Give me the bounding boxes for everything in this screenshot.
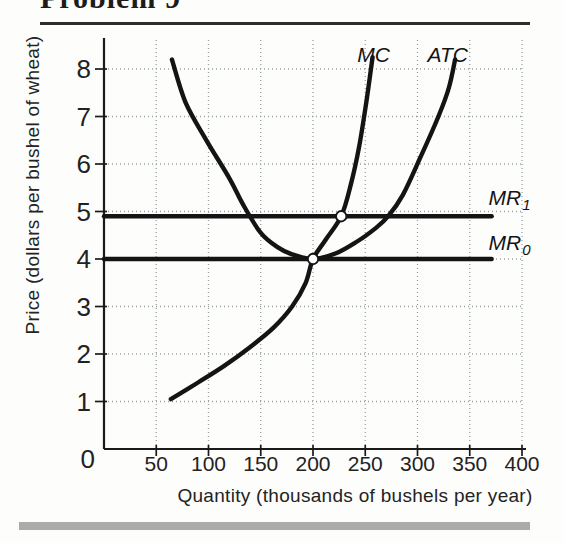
y-tick-label: 2	[77, 339, 91, 369]
x-tick-label: 200	[295, 452, 330, 475]
label-atc: ATC	[426, 43, 469, 66]
x-tick-label: 250	[348, 452, 383, 475]
y-tick-label: 3	[77, 292, 91, 322]
y-tick-label: 4	[77, 244, 91, 274]
x-tick-label: 400	[504, 452, 539, 475]
label-mc: MC	[357, 43, 390, 66]
intersection-dot	[336, 211, 346, 221]
curve-mc	[171, 57, 373, 399]
x-tick-label: 50	[145, 452, 168, 475]
chart-canvas: 50100150200250300350400012345678MCATCMR1…	[0, 0, 564, 543]
intersection-dot	[308, 254, 318, 264]
x-axis-title: Quantity (thousands of bushels per year)	[177, 485, 532, 507]
y-tick-label: 5	[77, 197, 91, 227]
x-tick-label: 100	[191, 452, 226, 475]
textbook-figure-page: Problem 9 Price (dollars per bushel of w…	[0, 0, 564, 543]
bottom-divider-bar	[19, 522, 530, 530]
origin-label: 0	[81, 444, 95, 474]
y-tick-label: 7	[77, 102, 91, 132]
y-tick-label: 1	[77, 387, 91, 417]
label-mr1: MR1	[489, 186, 531, 213]
x-tick-label: 300	[400, 452, 435, 475]
label-mr0: MR0	[489, 231, 532, 258]
curve-atc	[172, 60, 455, 260]
x-tick-label: 150	[243, 452, 278, 475]
x-tick-label: 350	[452, 452, 487, 475]
y-tick-label: 6	[77, 149, 91, 179]
y-tick-label: 8	[77, 54, 91, 84]
